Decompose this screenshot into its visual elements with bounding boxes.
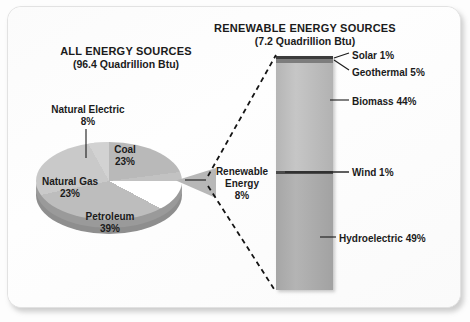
- pie-label-natural-electric-pct: 8%: [28, 116, 148, 128]
- pie-label-renewable-energy-pct: 8%: [209, 190, 275, 202]
- pie-label-natural-electric: Natural Electric: [28, 104, 148, 116]
- bar-chart-subtitle: (7.2 Quadrillion Btu): [200, 35, 410, 47]
- pie-chart-subtitle: (96.4 Quadrillion Btu): [46, 58, 206, 70]
- pie-label-natural-gas-pct: 23%: [24, 188, 116, 200]
- pie-label-natural-gas: Natural Gas: [24, 176, 116, 188]
- bar-label-biomass: Biomass 44%: [352, 96, 416, 108]
- pie-label-petroleum-pct: 39%: [74, 223, 146, 235]
- pie-label-renewable-energy-line1: Renewable: [209, 166, 275, 178]
- bar-label-hydroelectric: Hydroelectric 49%: [339, 233, 426, 245]
- bar-label-solar: Solar 1%: [352, 50, 394, 62]
- pie-label-petroleum: Petroleum: [74, 211, 146, 223]
- pie-label-coal-pct: 23%: [101, 156, 149, 168]
- bar-chart-title: RENEWABLE ENERGY SOURCES: [200, 22, 410, 35]
- bar-label-wind: Wind 1%: [352, 167, 394, 179]
- bar-segment-hydroelectric: [276, 174, 333, 290]
- figure-root: ALL ENERGY SOURCES (96.4 Quadrillion Btu…: [0, 0, 470, 322]
- bar-label-geothermal: Geothermal 5%: [352, 67, 425, 79]
- pie-label-renewable-energy-line2: Energy: [209, 178, 275, 190]
- stacked-bar: [276, 56, 333, 290]
- pie-chart-title: ALL ENERGY SOURCES: [46, 45, 206, 58]
- bar-segment-biomass: [276, 63, 333, 171]
- pie-label-coal: Coal: [101, 144, 149, 156]
